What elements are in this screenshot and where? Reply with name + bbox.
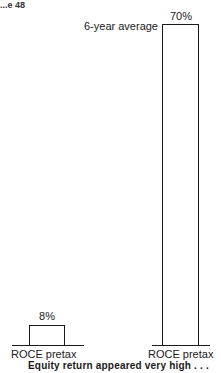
- bar-value-label-2: 70%: [162, 10, 200, 22]
- category-label-1: ROCE pretax: [11, 348, 76, 360]
- bar-roce-pretax-small: [29, 325, 65, 345]
- page-header-fragment: ...e 48: [0, 0, 25, 10]
- chart-caption: Equity return appeared very high . . .: [28, 360, 209, 371]
- baseline-left: [12, 345, 84, 346]
- bar-value-label-1: 8%: [29, 310, 65, 322]
- category-label-2: ROCE pretax: [148, 348, 213, 360]
- bar-roce-pretax-tall: [162, 24, 199, 345]
- annotation-6-year-average: 6-year average: [84, 20, 158, 32]
- baseline-right: [152, 345, 210, 346]
